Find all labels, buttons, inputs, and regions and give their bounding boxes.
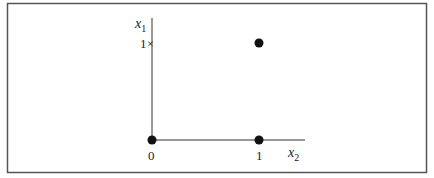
y-tick-marker-1: × — [147, 37, 154, 51]
x-tick-label-1: 1 — [256, 148, 263, 163]
x-tick-label-0: 0 — [148, 148, 155, 163]
data-point-1-1 — [255, 39, 264, 48]
y-tick-label-1: 1 — [140, 36, 147, 51]
x-axis-label: x2 — [287, 145, 299, 163]
y-axis-label: x1 — [134, 16, 146, 34]
data-point-0-0 — [148, 136, 157, 145]
diagram-canvas: x1 x2 1 × 0 1 — [0, 0, 434, 178]
data-point-1-0 — [255, 136, 264, 145]
figure-frame — [8, 4, 427, 173]
points-layer — [148, 39, 264, 145]
